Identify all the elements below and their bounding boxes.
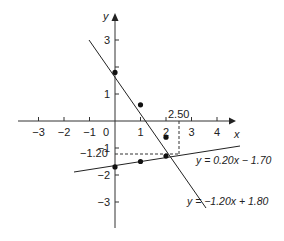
data-point — [112, 70, 117, 75]
intersect-y-label: −1.20 — [80, 147, 108, 159]
x-tick-label: 0 — [103, 126, 109, 138]
data-point — [112, 164, 117, 169]
y-axis-arrow-icon — [112, 13, 119, 21]
y-axis-label: y — [102, 10, 110, 22]
intersect-x-label: 2.50 — [168, 108, 189, 120]
x-tick-label: 3 — [188, 126, 194, 138]
x-tick-label: −3 — [32, 126, 45, 138]
x-tick-label: 1 — [137, 126, 143, 138]
chart: x y −3−2−10123431−1−2−3 2.50 −1.20 y = 0… — [0, 0, 284, 241]
data-point — [138, 102, 143, 107]
x-axis-label: x — [233, 128, 240, 140]
data-point — [138, 159, 143, 164]
data-point — [163, 135, 168, 140]
y-tick-label: 1 — [104, 88, 110, 100]
x-tick-label: −1 — [83, 126, 96, 138]
x-axis-arrow-icon — [229, 118, 236, 125]
equation-label-2: y = 0.20x − 1.70 — [195, 154, 271, 166]
x-tick-label: 4 — [214, 126, 220, 138]
equation-label-1: y = −1.20x + 1.80 — [186, 195, 269, 207]
data-point — [163, 154, 168, 159]
y-tick-label: 3 — [104, 34, 110, 46]
y-tick-label: −3 — [97, 196, 110, 208]
line-series-1 — [89, 40, 206, 208]
x-tick-label: −2 — [58, 126, 71, 138]
y-tick-label: −2 — [97, 169, 110, 181]
